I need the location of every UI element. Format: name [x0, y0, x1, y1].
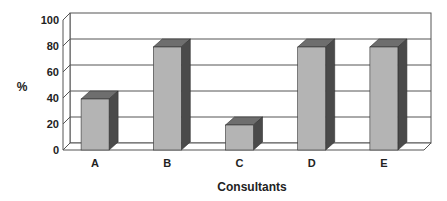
- y-axis-title: %: [17, 80, 28, 94]
- y-tick-label: 100: [41, 14, 59, 26]
- x-category-label: B: [163, 157, 171, 169]
- y-tick-label: 20: [47, 118, 59, 130]
- bar-chart: 020406080100 ABCDE % Consultants: [0, 0, 447, 201]
- x-axis-categories: ABCDE: [91, 157, 387, 169]
- y-tick-label: 0: [53, 144, 59, 156]
- x-axis-title: Consultants: [217, 180, 287, 194]
- x-category-label: A: [91, 157, 99, 169]
- bar-A: [81, 91, 118, 150]
- bar-C: [226, 117, 263, 150]
- bar-E: [370, 39, 407, 150]
- y-axis-ticks: 020406080100: [41, 14, 59, 156]
- x-category-label: E: [380, 157, 387, 169]
- x-category-label: D: [308, 157, 316, 169]
- y-tick-label: 60: [47, 66, 59, 78]
- bar-D: [298, 39, 335, 150]
- y-tick-label: 80: [47, 40, 59, 52]
- x-category-label: C: [236, 157, 244, 169]
- y-tick-label: 40: [47, 92, 59, 104]
- bar-B: [153, 39, 190, 150]
